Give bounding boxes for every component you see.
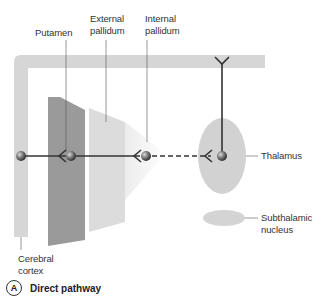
label-cerebral-cortex: Cerebral cortex [18,253,54,277]
label-putamen: Putamen [35,27,72,39]
panel-letter-badge: A [6,280,22,296]
label-external-pallidum: External pallidum [90,13,125,37]
caption-title: Direct pathway [30,283,101,294]
putamen-shape [48,97,85,246]
figure-caption: A Direct pathway [6,280,101,296]
subthalamic-nucleus-shape [203,210,245,226]
thalamus-neuron [217,151,227,161]
internal-pallidum-shape [125,122,160,200]
internal-pallidum-neuron [141,151,151,161]
external-pallidum-shape [89,108,125,232]
label-subthalamic-nucleus: Subthalamic nucleus [261,212,312,236]
label-thalamus: Thalamus [261,150,302,162]
cortex-neuron [16,151,26,161]
putamen-neuron [66,151,76,161]
label-internal-pallidum: Internal pallidum [145,13,180,37]
